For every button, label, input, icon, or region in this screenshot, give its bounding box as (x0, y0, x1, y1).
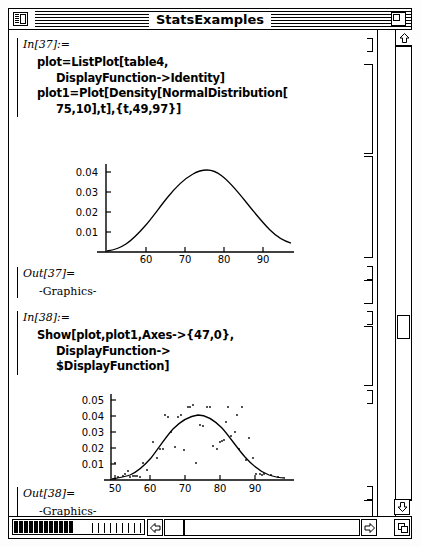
zoom-box[interactable] (391, 12, 406, 26)
scroll-up-arrow-icon[interactable] (396, 30, 412, 46)
scroll-right-arrow-icon[interactable] (361, 519, 377, 536)
chart-1-ytick-0.01: 0.01 (76, 227, 98, 238)
cell-bracket-in-37-code[interactable] (364, 64, 373, 154)
chart-1-ytick-0.02: 0.02 (76, 207, 98, 218)
left-arrow-glyph (150, 523, 161, 533)
code-line-2[interactable]: DisplayFunction->Identity] (17, 71, 347, 87)
title-bar-stripes (35, 11, 411, 27)
chart-2-ytick-0.01: 0.01 (82, 459, 104, 470)
chart-1-xtick-90: 90 (257, 254, 270, 264)
code-line-2[interactable]: DisplayFunction-> (17, 344, 347, 360)
cell-bracket-out-38-label[interactable] (367, 486, 373, 500)
magnification-thumb[interactable] (74, 521, 90, 533)
cell-bracket-in-38-label[interactable] (367, 311, 373, 325)
code-line-4[interactable]: 75,10],t],{t,49,97}] (17, 102, 347, 118)
chart-1-xtick-60: 60 (140, 254, 153, 264)
cell-label-in-38: In[38]:= (17, 311, 347, 324)
chart-2-svg: 0.05 0.04 0.03 0.02 0.01 (64, 392, 324, 497)
code-line-3[interactable]: $DisplayFunction] (17, 359, 347, 375)
cell-bracket-out-37-label[interactable] (367, 266, 373, 280)
close-box[interactable] (13, 12, 28, 26)
chart-2-ytick-0.03: 0.03 (82, 427, 104, 438)
scroll-corner-arrow-icon[interactable] (394, 499, 410, 515)
chart-2: 0.05 0.04 0.03 0.02 0.01 (64, 392, 324, 497)
up-arrow-glyph (399, 33, 410, 43)
chart-1-svg: 0.04 0.03 0.02 0.01 (64, 156, 324, 264)
chart-1-ytick-0.03: 0.03 (76, 187, 98, 198)
cell-bracket-out-37[interactable] (364, 280, 373, 304)
horizontal-scroll-thumb[interactable] (164, 519, 184, 536)
code-line-1[interactable]: Show[plot,plot1,Axes->{47,0}, (17, 328, 347, 344)
cell-bracket-out-38[interactable] (364, 500, 373, 516)
cell-left-rule (17, 38, 18, 117)
magnification-fill (14, 521, 74, 533)
cell-label-out-38: Out[38]= (17, 487, 347, 500)
notebook-window: StatsExamples In[37]:= plot=ListPlot[tab… (8, 8, 412, 539)
cell-output-text-37: -Graphics- (17, 285, 347, 298)
horizontal-scroll-track[interactable] (184, 519, 360, 536)
cell-label-in-37: In[37]:= (17, 38, 347, 51)
cell-out-38[interactable]: Out[38]= -Graphics- (17, 487, 347, 516)
cell-bracket-in-37-graphics[interactable] (364, 156, 373, 258)
cell-label-out-37: Out[37]= (17, 267, 347, 280)
cell-left-rule (17, 487, 18, 516)
vertical-scroll-track[interactable] (396, 46, 411, 500)
chart-2-density-curve (112, 415, 285, 479)
chart-1-xtick-80: 80 (218, 254, 231, 264)
magnification-ruler[interactable] (12, 519, 145, 535)
right-arrow-glyph (364, 523, 375, 533)
cell-bracket-in-38-code[interactable] (364, 326, 373, 386)
chart-1: 0.04 0.03 0.02 0.01 (64, 156, 324, 264)
bottom-bar (9, 516, 411, 538)
cell-left-rule (17, 311, 18, 375)
cell-in-38[interactable]: In[38]:= Show[plot,plot1,Axes->{47,0}, D… (17, 311, 347, 375)
corner-arrow-glyph (397, 502, 408, 512)
vertical-scrollbar[interactable] (395, 30, 411, 516)
chart-2-ytick-0.02: 0.02 (82, 443, 104, 454)
window-content: In[37]:= plot=ListPlot[table4, DisplayFu… (9, 30, 411, 538)
chart-1-xtick-70: 70 (179, 254, 192, 264)
cell-bracket-in-37-label[interactable] (367, 38, 373, 52)
vertical-scroll-thumb[interactable] (397, 315, 410, 339)
code-line-1[interactable]: plot=ListPlot[table4, (17, 55, 347, 71)
cell-out-37[interactable]: Out[37]= -Graphics- (17, 267, 347, 298)
cell-bracket-in-38-graphics-top[interactable] (367, 390, 373, 404)
cell-output-text-38: -Graphics- (17, 505, 347, 516)
magnification-ticks (92, 523, 142, 533)
chart-1-ytick-0.04: 0.04 (76, 167, 98, 178)
code-line-3[interactable]: plot1=Plot[Density[NormalDistribution[ (17, 86, 347, 102)
grow-box[interactable] (394, 519, 410, 536)
scroll-left-arrow-icon[interactable] (147, 519, 163, 536)
title-bar[interactable]: StatsExamples (9, 9, 411, 30)
chart-2-ytick-0.05: 0.05 (82, 395, 104, 406)
cell-in-37[interactable]: In[37]:= plot=ListPlot[table4, DisplayFu… (17, 38, 347, 117)
notebook-canvas[interactable]: In[37]:= plot=ListPlot[table4, DisplayFu… (9, 30, 378, 516)
horizontal-scrollbar[interactable] (147, 519, 377, 536)
chart-1-density-curve (107, 170, 291, 251)
chart-2-ytick-0.04: 0.04 (82, 411, 104, 422)
cell-left-rule (17, 267, 18, 298)
